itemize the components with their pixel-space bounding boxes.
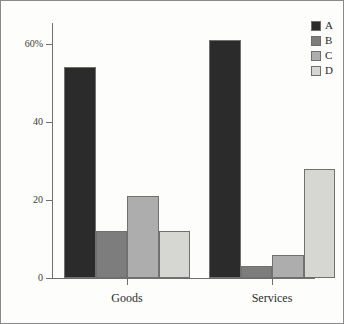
y-tick-label: 40	[33, 117, 43, 127]
y-tick-label: 0	[38, 273, 43, 283]
plot-area: 60%40200 GoodsServices	[1, 1, 344, 324]
y-tick-mark	[46, 44, 53, 45]
legend-item-d: D	[311, 65, 333, 76]
bar-services-a	[209, 40, 241, 278]
chart-figure: 60%40200 GoodsServices ABCD	[0, 0, 344, 324]
bar-goods-d	[159, 231, 190, 278]
x-tick-label-services: Services	[252, 291, 293, 306]
legend-swatch-icon	[311, 36, 321, 46]
y-tick-mark	[46, 122, 53, 123]
legend-item-c: C	[311, 50, 333, 61]
x-tick-label-goods: Goods	[111, 291, 142, 306]
bar-services-c	[272, 255, 304, 278]
legend-label: A	[325, 20, 333, 31]
bar-goods-a	[64, 67, 96, 278]
bar-services-d	[304, 169, 335, 278]
legend-swatch-icon	[311, 66, 321, 76]
y-tick-label: 60%	[25, 39, 43, 49]
y-tick-mark	[46, 278, 53, 279]
x-tick-mark	[272, 278, 273, 285]
legend-swatch-icon	[311, 21, 321, 31]
legend-label: D	[325, 65, 333, 76]
x-tick-mark	[127, 278, 128, 285]
chart-legend: ABCD	[311, 20, 333, 76]
bar-services-b	[241, 266, 272, 278]
legend-item-b: B	[311, 35, 333, 46]
y-axis-line	[52, 23, 53, 279]
legend-label: B	[325, 35, 332, 46]
bar-goods-c	[127, 196, 159, 278]
legend-swatch-icon	[311, 51, 321, 61]
y-tick-label: 20	[33, 195, 43, 205]
x-axis-line	[52, 278, 315, 279]
bar-goods-b	[96, 231, 127, 278]
legend-item-a: A	[311, 20, 333, 31]
legend-label: C	[325, 50, 332, 61]
y-tick-mark	[46, 200, 53, 201]
